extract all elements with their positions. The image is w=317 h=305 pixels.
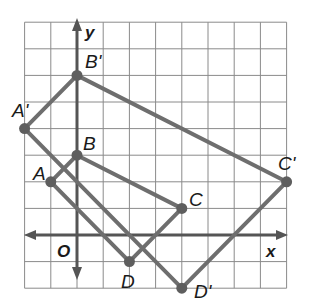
vertex-point: [176, 283, 187, 294]
y-axis-arrow-down-icon: [72, 267, 82, 280]
coordinate-plane-diagram: y x O A B C D A' B' C' D': [0, 0, 317, 305]
label-A-prime: A': [11, 100, 30, 121]
y-axis-label: y: [84, 23, 96, 42]
label-C-prime: C': [278, 153, 297, 174]
vertex-point: [19, 123, 30, 134]
origin-label: O: [57, 242, 70, 261]
label-D-prime: D': [194, 281, 213, 302]
vertex-point: [124, 256, 135, 267]
label-B: B: [83, 133, 96, 154]
vertex-point: [72, 70, 83, 81]
label-A: A: [32, 163, 46, 184]
y-axis-arrow-up-icon: [72, 18, 82, 31]
label-D: D: [121, 271, 135, 292]
label-C: C: [189, 189, 203, 210]
x-axis-arrow-left-icon: [24, 230, 36, 240]
vertex-point: [176, 203, 187, 214]
vertex-point: [45, 176, 56, 187]
x-axis-label: x: [265, 242, 277, 261]
vertex-point: [281, 176, 292, 187]
vertex-point: [72, 150, 83, 161]
label-B-prime: B': [85, 51, 103, 72]
